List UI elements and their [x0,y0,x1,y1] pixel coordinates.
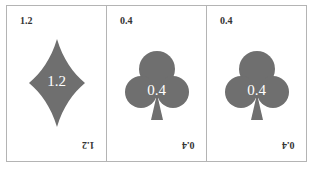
diamond-icon: 1.2 [29,39,85,127]
card-3[interactable]: 0.4 0.4 0.4 [207,5,307,162]
card-corner-value-bottom: 1.2 [82,140,95,151]
card-pip-value: 0.4 [225,82,289,99]
card-corner-value-top: 0.4 [220,15,233,26]
club-icon: 0.4 [125,50,189,120]
card-corner-value-bottom: 0.4 [282,140,295,151]
card-hand: 1.2 1.2 1.2 0.4 0.4 0.4 0.4 [6,5,307,162]
club-icon: 0.4 [225,50,289,120]
card-2[interactable]: 0.4 0.4 0.4 [107,5,207,162]
card-pip-value: 0.4 [125,82,189,99]
card-corner-value-bottom: 0.4 [182,140,195,151]
card-1[interactable]: 1.2 1.2 1.2 [6,5,107,162]
card-pip-value: 1.2 [29,73,85,90]
card-corner-value-top: 0.4 [120,15,133,26]
card-corner-value-top: 1.2 [20,15,33,26]
